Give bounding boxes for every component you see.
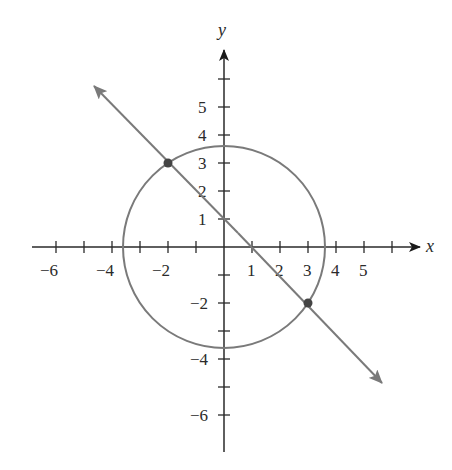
intersection-point xyxy=(304,299,313,308)
line-curve xyxy=(238,233,382,383)
y-tick-label: −4 xyxy=(190,350,209,369)
x-axis-label: x xyxy=(425,236,434,256)
y-axis-label: y xyxy=(216,20,226,40)
y-tick-label: 3 xyxy=(198,154,207,173)
x-tick-labels: −6 −4 −2 1 2 3 4 5 xyxy=(40,261,368,280)
x-tick-label: 4 xyxy=(331,261,340,280)
y-tick-label: 5 xyxy=(198,98,207,117)
coordinate-plane: x y −6 −4 −2 1 2 3 4 5 5 4 3 2 1 −2 −4 −… xyxy=(0,0,452,470)
y-tick-label: −2 xyxy=(190,294,208,313)
x-tick-label: −4 xyxy=(96,261,115,280)
x-tick-label: −6 xyxy=(40,261,58,280)
intersection-point xyxy=(164,159,173,168)
y-tick-label: 1 xyxy=(198,210,207,229)
x-tick-label: 1 xyxy=(247,261,256,280)
x-tick-label: −2 xyxy=(152,261,170,280)
y-tick-label: −6 xyxy=(190,406,208,425)
y-tick-label: 4 xyxy=(198,126,207,145)
x-tick-label: 3 xyxy=(303,261,312,280)
x-tick-label: 5 xyxy=(359,261,368,280)
